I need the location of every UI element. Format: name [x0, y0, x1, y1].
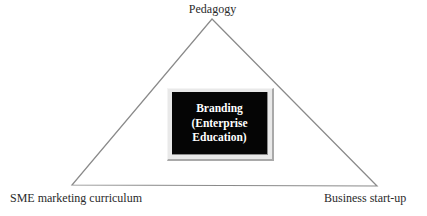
- center-text-line-1: Branding: [196, 101, 243, 116]
- vertex-label-bottom-right: Business start-up: [324, 191, 406, 205]
- vertex-label-bottom-left: SME marketing curriculum: [10, 191, 142, 205]
- center-text-line-3: Education): [192, 130, 246, 145]
- vertex-label-top: Pedagogy: [0, 2, 427, 16]
- center-text-line-2: (Enterprise: [191, 116, 247, 131]
- center-box-content: Branding (Enterprise Education): [172, 92, 268, 155]
- pedagogy-label: Pedagogy: [189, 2, 236, 16]
- triangle-diagram: Pedagogy SME marketing curriculum Busine…: [0, 0, 427, 216]
- center-box: Branding (Enterprise Education): [167, 88, 274, 161]
